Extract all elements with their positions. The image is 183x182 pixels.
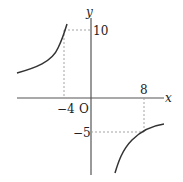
x-axis-label: x [165, 91, 172, 105]
tick-x-neg4: −4 [57, 102, 75, 116]
guide-lines [64, 30, 144, 132]
curve-right-branch [115, 124, 164, 173]
origin-label: O [79, 102, 89, 116]
inverse-proportion-graph: y x O −4 8 10 −5 [0, 0, 183, 182]
tick-y-10: 10 [93, 24, 108, 38]
curve-left-branch [17, 24, 67, 73]
tick-y-neg5: −5 [73, 126, 91, 140]
tick-x-8: 8 [140, 83, 148, 97]
y-axis-label: y [85, 5, 93, 19]
